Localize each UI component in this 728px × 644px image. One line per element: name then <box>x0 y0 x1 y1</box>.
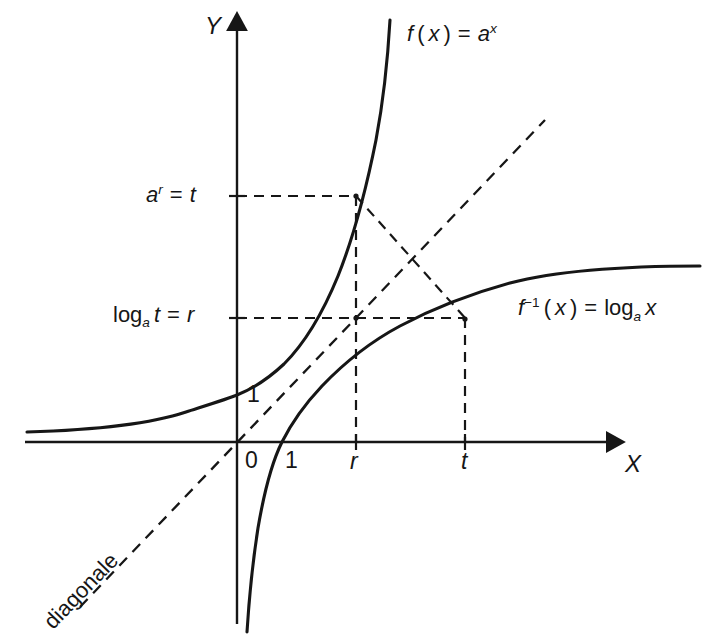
figure-root: Y X 0 1 r t 1 ar=t logat=r f(x)=ax f−1(x… <box>0 0 728 644</box>
log-label-paren-open: ( <box>544 295 551 320</box>
y-tick-label-one: 1 <box>247 383 260 406</box>
curve-exponential <box>27 20 390 432</box>
axis-ticks <box>229 196 465 450</box>
value-lower-value: r <box>187 302 194 327</box>
log-label-x: x <box>555 295 566 320</box>
value-upper-base: a <box>146 182 158 207</box>
log-label-inverse-exponent: −1 <box>524 295 540 310</box>
value-upper-exponent: r <box>158 182 163 197</box>
point-r-r <box>353 315 358 320</box>
value-lower-argument: t <box>154 302 160 327</box>
value-upper-value: t <box>190 182 196 207</box>
value-lower-equals: = <box>167 302 180 327</box>
exp-label-equals: = <box>458 21 471 46</box>
log-label-argument: x <box>645 295 656 320</box>
value-lower-base: a <box>142 315 150 330</box>
value-label-log-a-t-equals-r: logat=r <box>113 304 194 330</box>
exp-label-x: x <box>428 21 439 46</box>
exp-label-exponent: x <box>490 21 497 36</box>
exp-label-paren-open: ( <box>417 21 424 46</box>
origin-label: 0 <box>245 449 258 472</box>
x-axis-label: X <box>625 452 641 476</box>
x-tick-label-one: 1 <box>285 449 298 472</box>
value-lower-log: log <box>113 302 142 327</box>
exp-label-base: a <box>478 21 490 46</box>
x-tick-label-r: r <box>350 450 358 473</box>
x-tick-label-t: t <box>461 450 467 473</box>
curve-label-exponential: f(x)=ax <box>407 22 497 45</box>
point-t-r <box>462 316 467 321</box>
log-label-log: log <box>604 295 633 320</box>
value-label-a-pow-r-equals-t: ar=t <box>146 183 196 206</box>
y-axis-label: Y <box>205 14 221 38</box>
curve-label-logarithm: f−1(x)=logax <box>518 296 656 323</box>
log-label-paren-close: ) <box>570 295 577 320</box>
value-upper-equals: = <box>170 182 183 207</box>
exp-label-paren-close: ) <box>443 21 450 46</box>
log-label-equals: = <box>584 295 597 320</box>
log-label-base: a <box>634 309 642 324</box>
exp-label-f: f <box>407 21 413 46</box>
point-r-t <box>353 193 358 198</box>
